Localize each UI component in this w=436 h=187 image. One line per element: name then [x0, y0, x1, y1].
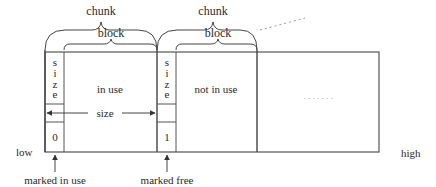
marked-in-use-label: marked in use: [24, 174, 86, 186]
svg-text:e: e: [165, 88, 170, 100]
size-vertical-label-1: s i z e: [53, 56, 58, 100]
flag-in-use: 0: [52, 131, 58, 143]
flag-free: 1: [164, 131, 170, 143]
chunk-label-2: chunk: [198, 4, 227, 18]
ellipsis-label: . . . . . . .: [303, 91, 332, 101]
block-label-2: block: [205, 26, 232, 40]
high-address-label: high: [401, 147, 421, 159]
not-in-use-label: not in use: [195, 83, 238, 95]
block-brace-2: [176, 39, 257, 50]
block-label-1: block: [98, 26, 125, 40]
marked-free-label: marked free: [141, 174, 194, 186]
low-address-label: low: [16, 146, 33, 158]
heap-chunk-diagram: chunk chunk block block s i z e s i z e …: [0, 0, 436, 187]
size-span-label: size: [96, 107, 113, 119]
in-use-label: in use: [97, 83, 123, 95]
continuation-dotted-line: [260, 18, 305, 30]
size-vertical-label-2: s i z e: [165, 56, 170, 100]
chunk-label-1: chunk: [86, 4, 115, 18]
svg-text:e: e: [53, 88, 58, 100]
block-brace-1: [64, 39, 157, 50]
memory-strip: [45, 52, 379, 152]
